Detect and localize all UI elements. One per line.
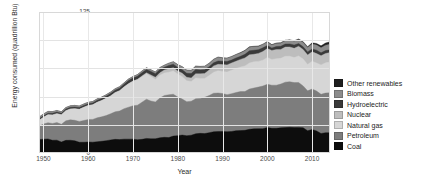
gridline-v [223, 12, 224, 153]
x-tick-1960: 1960 [68, 156, 108, 163]
legend-item-label: Other renewables [347, 80, 402, 87]
legend-swatch-icon [334, 100, 343, 108]
legend-item-label: Petroleum [347, 132, 379, 139]
gridline-v [43, 12, 44, 153]
legend-item-coal[interactable]: Coal [334, 141, 402, 152]
legend-item-nuclear[interactable]: Nuclear [334, 110, 402, 121]
legend-swatch-icon [334, 90, 343, 98]
gridline-v [88, 12, 89, 153]
legend-item-label: Coal [347, 143, 361, 150]
gridline-h [39, 12, 330, 13]
gridline-h [39, 125, 330, 126]
legend-item-label: Biomass [347, 90, 374, 97]
legend-swatch-icon [334, 111, 343, 119]
x-tick-2000: 2000 [247, 156, 287, 163]
legend-item-label: Nuclear [347, 111, 371, 118]
x-tick-1990: 1990 [203, 156, 243, 163]
x-tick-2010: 2010 [292, 156, 332, 163]
x-axis-title: Year [39, 168, 330, 175]
gridline-v [267, 12, 268, 153]
legend-item-other-renewables[interactable]: Other renewables [334, 78, 402, 89]
gridline-h [39, 68, 330, 69]
legend-swatch-icon [334, 79, 343, 87]
legend-swatch-icon [334, 142, 343, 150]
legend-item-petroleum[interactable]: Petroleum [334, 131, 402, 142]
legend-item-biomass[interactable]: Biomass [334, 89, 402, 100]
gridline-h [39, 40, 330, 41]
legend-item-label: Natural gas [347, 122, 383, 129]
x-tick-1950: 1950 [23, 156, 63, 163]
gridline-v [133, 12, 134, 153]
x-tick-1970: 1970 [113, 156, 153, 163]
gridline-v [178, 12, 179, 153]
legend-swatch-icon [334, 132, 343, 140]
legend-item-hydroelectric[interactable]: Hydroelectric [334, 99, 402, 110]
gridline-v [312, 12, 313, 153]
legend: Other renewablesBiomassHydroelectricNucl… [334, 78, 402, 152]
x-tick-1980: 1980 [158, 156, 198, 163]
gridline-h [39, 97, 330, 98]
legend-swatch-icon [334, 121, 343, 129]
y-axis-title: Energy consumed (quadrillion Btu) [11, 0, 18, 126]
stacked-area-series [39, 12, 330, 153]
energy-consumption-area-chart: Energy consumed (quadrillion Btu) 025507… [0, 0, 424, 185]
plot-area [39, 12, 330, 153]
legend-item-label: Hydroelectric [347, 101, 388, 108]
legend-item-natural-gas[interactable]: Natural gas [334, 120, 402, 131]
